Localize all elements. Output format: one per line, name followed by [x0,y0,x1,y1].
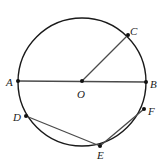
point-f [142,107,146,111]
label-a: A [5,76,13,88]
circle-diagram: ABCODEF [0,0,164,167]
point-o [80,79,84,83]
label-f: F [147,105,155,117]
segment-oc [82,35,128,81]
label-e: E [96,149,104,161]
point-e [98,144,102,148]
point-b [144,80,148,84]
point-a [16,79,20,83]
label-d: D [12,111,21,123]
point-d [24,114,28,118]
segment-ef [100,109,144,146]
label-b: B [150,78,157,90]
segment-de [26,116,100,146]
label-o: O [77,88,85,100]
label-c: C [130,25,138,37]
